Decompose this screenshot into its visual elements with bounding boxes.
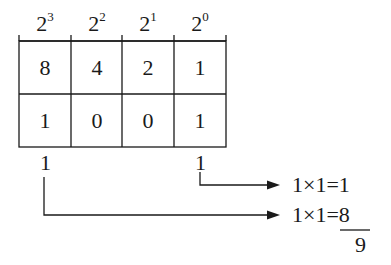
- arrow-left-bit: [44, 177, 272, 215]
- sum-result: 9: [355, 234, 366, 256]
- header-base: 2: [36, 11, 47, 36]
- header-base: 2: [191, 11, 202, 36]
- extracted-bit-right: 1: [195, 152, 206, 174]
- equation-1: 1×1=1: [292, 174, 350, 196]
- header-exponent: 3: [47, 9, 54, 24]
- binary-digit-cell: 0: [122, 110, 174, 132]
- equation-2-rhs: 8: [339, 202, 350, 227]
- equation-2: 1×1=8: [292, 204, 350, 226]
- arrowhead-icon: [267, 181, 280, 190]
- place-value-cell: 2: [122, 57, 174, 79]
- header-power-0: 20: [174, 13, 226, 35]
- header-power-2: 22: [71, 13, 123, 35]
- header-exponent: 2: [99, 9, 106, 24]
- header-base: 2: [88, 11, 99, 36]
- binary-digit-cell: 0: [71, 110, 123, 132]
- place-value-cell: 1: [174, 57, 226, 79]
- place-value-cell: 8: [19, 57, 71, 79]
- arrowhead-icon: [267, 211, 280, 220]
- header-power-3: 23: [19, 13, 71, 35]
- binary-digit-cell: 1: [174, 110, 226, 132]
- header-exponent: 1: [150, 9, 157, 24]
- header-power-1: 21: [122, 13, 174, 35]
- place-value-cell: 4: [71, 57, 123, 79]
- equation-2-lhs: 1×1=: [292, 202, 339, 227]
- arrow-right-bit: [200, 172, 272, 185]
- binary-digit-cell: 1: [19, 110, 71, 132]
- header-base: 2: [139, 11, 150, 36]
- header-exponent: 0: [202, 9, 209, 24]
- extracted-bit-left: 1: [40, 152, 51, 174]
